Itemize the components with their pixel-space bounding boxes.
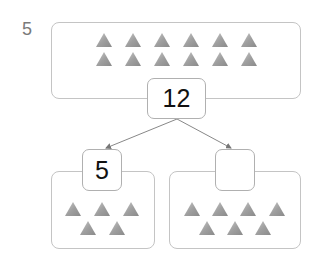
right-part-triangles	[184, 202, 285, 235]
left-part-number-box: 5	[82, 149, 122, 191]
arrow-to-left-part	[106, 119, 177, 148]
left-part-triangles	[65, 202, 139, 235]
arrow-to-right-part	[177, 119, 231, 148]
diagram-graphics	[0, 0, 314, 256]
whole-triangles	[96, 33, 257, 66]
whole-number-box: 12	[147, 78, 206, 119]
right-part-answer-box[interactable]	[215, 149, 255, 191]
